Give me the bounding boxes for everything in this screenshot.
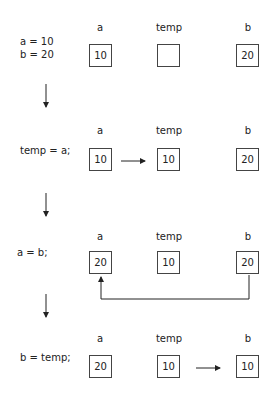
arrow-b-to-a-icon <box>101 275 249 299</box>
arrows-layer <box>0 0 278 401</box>
